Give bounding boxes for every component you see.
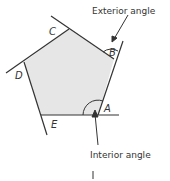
vertex-label-d: D	[15, 70, 23, 81]
vertex-label-b: B	[109, 47, 116, 58]
interior-arrow-line	[95, 114, 98, 145]
interior-angle-caption: Interior angle	[90, 150, 151, 160]
vertex-label-a: A	[103, 103, 111, 114]
pentagon-shape	[24, 29, 114, 115]
exterior-arrow-line	[114, 15, 128, 39]
vertex-label-c: C	[49, 26, 56, 37]
exterior-arrow-icon	[112, 36, 117, 42]
exterior-angle-caption: Exterior angle	[92, 6, 156, 16]
pentagon-diagram: C B A E D Exterior angle Interior angle	[0, 0, 170, 181]
vertex-label-e: E	[51, 119, 58, 130]
